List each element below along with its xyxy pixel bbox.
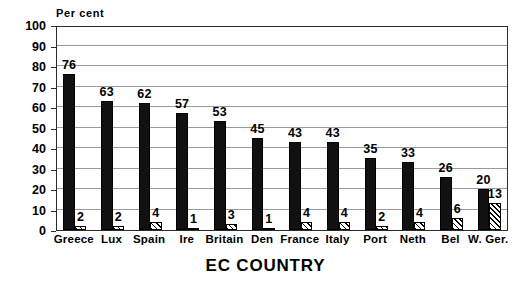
bar-value-label-primary: 20 [468,173,498,187]
x-axis-tick-labels: GreeceLuxSpainIreBritainDenFranceItalyPo… [56,233,508,251]
x-tick-label: Ire [179,233,194,245]
x-tick-label: Port [363,233,387,245]
y-tick-label: 60 [0,101,46,115]
y-tick-label: 30 [0,163,46,177]
y-tick-label: 70 [0,81,46,95]
bar-secondary [489,203,501,230]
y-tick-label: 100 [0,19,46,33]
y-axis-tick-labels: 0102030405060708090100 [0,26,52,231]
x-tick-label: Spain [133,233,165,245]
y-tick-label: 40 [0,142,46,156]
y-tick-label: 80 [0,60,46,74]
x-axis-title: EC COUNTRY [0,256,531,276]
bar-chart-figure: Per cent 0102030405060708090100 76263262… [0,0,531,288]
x-tick-label: Lux [101,233,122,245]
x-tick-label: W. Ger. [468,233,508,245]
y-tick-label: 90 [0,40,46,54]
bar-group: 2013 [57,27,509,230]
x-tick-label: Den [251,233,273,245]
bar-value-label-secondary: 13 [482,187,508,201]
x-tick-label: Neth [400,233,426,245]
x-tick-label: France [280,233,319,245]
y-tick-label: 0 [0,224,46,238]
x-tick-label: Britain [206,233,244,245]
y-tick-label: 20 [0,183,46,197]
y-axis-title: Per cent [56,7,104,19]
bars-layer: 7626326245715334514344343523342662013 [57,27,507,230]
plot-area: 7626326245715334514344343523342662013 [56,26,508,231]
y-tick-label: 50 [0,122,46,136]
x-tick-label: Bel [441,233,460,245]
x-tick-label: Italy [325,233,349,245]
y-tick-mark [51,231,56,232]
x-tick-label: Greece [54,233,94,245]
y-tick-label: 10 [0,204,46,218]
